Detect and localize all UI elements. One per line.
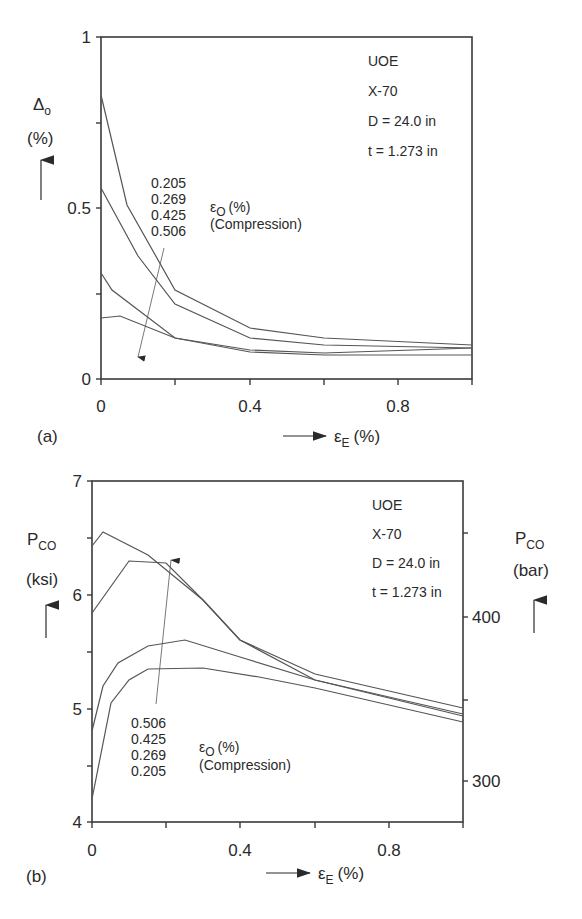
svg-text:X-70: X-70 — [372, 526, 402, 542]
curve-0.506 — [101, 316, 472, 355]
x-tick-0: 0 — [96, 397, 105, 416]
svg-text:Δo: Δo — [33, 95, 51, 118]
figure-canvas: 1 0.5 0 0 0.4 0.8 Δo (%) εE(%) (a) UO — [0, 0, 582, 919]
svg-text:D = 24.0 in: D = 24.0 in — [368, 113, 436, 129]
x-tick-0.8: 0.8 — [377, 841, 401, 860]
svg-text:(Compression): (Compression) — [210, 216, 302, 232]
svg-text:0.205: 0.205 — [151, 175, 186, 191]
x-axis-title-b: εE(%) — [266, 864, 364, 887]
x-axis-b — [92, 822, 463, 828]
svg-text:PCO: PCO — [515, 529, 544, 552]
y-tick-1: 1 — [82, 28, 91, 47]
x-tick-0.8: 0.8 — [386, 397, 410, 416]
svg-text:t = 1.273 in: t = 1.273 in — [368, 143, 438, 159]
y-right-tick-400: 400 — [472, 608, 500, 627]
svg-text:PCO: PCO — [27, 530, 56, 553]
svg-text:(bar): (bar) — [513, 561, 549, 580]
x-axis-title-a: εE(%) — [283, 427, 380, 450]
y-right-tick-300: 300 — [472, 772, 500, 791]
legend-arrow-icon — [156, 560, 171, 704]
panel-a: 1 0.5 0 0 0.4 0.8 Δo (%) εE(%) (a) UO — [27, 28, 472, 450]
svg-text:εE(%): εE(%) — [334, 427, 380, 450]
y-axis-title-right-b: PCO (bar) — [513, 529, 549, 633]
y-tick-4: 4 — [73, 813, 82, 832]
y-tick-6: 6 — [73, 586, 82, 605]
panel-label-b: (b) — [26, 867, 47, 886]
panel-label-a: (a) — [37, 427, 58, 446]
svg-text:0.269: 0.269 — [151, 191, 186, 207]
info-block-b: UOE X-70 D = 24.0 in t = 1.273 in — [372, 497, 442, 600]
y-axis-title-a: Δo (%) — [27, 95, 53, 200]
y-tick-7: 7 — [73, 472, 82, 491]
svg-text:UOE: UOE — [372, 497, 402, 513]
svg-text:0.269: 0.269 — [131, 747, 166, 763]
svg-text:UOE: UOE — [368, 53, 398, 69]
legend-a: 0.205 0.269 0.425 0.506 εO(%) (Compressi… — [138, 175, 302, 357]
svg-text:X-70: X-70 — [368, 83, 398, 99]
panel-b: 7 6 5 4 400 300 0 0.4 0.8 PCO (ksi) — [26, 472, 549, 887]
svg-text:t = 1.273 in: t = 1.273 in — [372, 584, 442, 600]
info-block-a: UOE X-70 D = 24.0 in t = 1.273 in — [368, 53, 438, 159]
svg-text:0.506: 0.506 — [151, 223, 186, 239]
svg-text:0.506: 0.506 — [131, 715, 166, 731]
svg-text:(%): (%) — [27, 129, 53, 148]
svg-text:0.205: 0.205 — [131, 763, 166, 779]
y-tick-0.5: 0.5 — [67, 199, 91, 218]
svg-text:εE(%): εE(%) — [318, 864, 364, 887]
svg-text:0.425: 0.425 — [151, 207, 186, 223]
y-tick-0: 0 — [82, 370, 91, 389]
x-tick-0.4: 0.4 — [238, 397, 262, 416]
svg-text:εO(%): εO(%) — [199, 739, 239, 759]
y-tick-5: 5 — [73, 700, 82, 719]
svg-text:0.425: 0.425 — [131, 731, 166, 747]
svg-text:D = 24.0 in: D = 24.0 in — [372, 555, 440, 571]
x-tick-0.4: 0.4 — [228, 841, 252, 860]
x-axis-a — [101, 379, 472, 385]
y-axis-title-b: PCO (ksi) — [26, 530, 58, 638]
x-tick-0: 0 — [87, 841, 96, 860]
svg-text:(ksi): (ksi) — [26, 570, 58, 589]
svg-text:(Compression): (Compression) — [199, 757, 291, 773]
